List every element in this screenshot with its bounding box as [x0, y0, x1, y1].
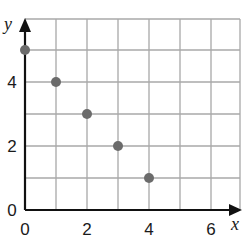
x-tick-label: 0 [20, 220, 29, 237]
y-tick-label: 0 [7, 201, 16, 220]
data-point [51, 77, 61, 87]
y-tick-labels: 024 [7, 73, 16, 220]
y-axis-label: y [2, 14, 12, 34]
x-tick-labels: 0246 [20, 220, 215, 237]
x-tick-label: 6 [206, 220, 215, 237]
data-point [113, 141, 123, 151]
y-axis-arrow-icon [19, 18, 31, 32]
x-tick-label: 2 [82, 220, 91, 237]
x-axis-label: x [230, 214, 239, 234]
data-point [20, 45, 30, 55]
scatter-chart: 0246 024 x y [0, 0, 243, 237]
grid-lines [25, 19, 240, 210]
data-point [144, 173, 154, 183]
axes [19, 18, 242, 216]
y-tick-label: 2 [7, 137, 16, 156]
x-tick-label: 4 [144, 220, 153, 237]
data-point [82, 109, 92, 119]
y-tick-label: 4 [7, 73, 16, 92]
